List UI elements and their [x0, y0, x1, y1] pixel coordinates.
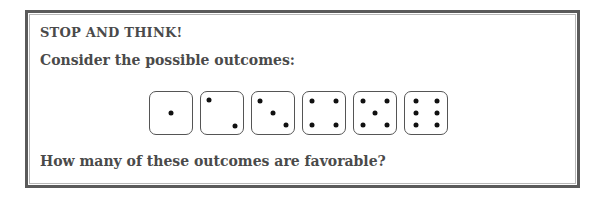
die-pip-icon: [310, 99, 315, 104]
die-face-1: [149, 91, 193, 135]
die-pip-icon: [258, 99, 263, 104]
die-pip-icon: [271, 111, 276, 116]
box-heading: STOP AND THINK!: [40, 25, 182, 40]
die-pip-icon: [384, 122, 389, 127]
die-pip-icon: [333, 122, 338, 127]
die-pip-icon: [413, 111, 418, 116]
favorable-question: How many of these outcomes are favorable…: [40, 153, 386, 169]
stop-and-think-box: STOP AND THINK! Consider the possible ou…: [25, 10, 580, 188]
die-face-6: [404, 91, 448, 135]
die-pip-icon: [434, 111, 439, 116]
die-face-3: [251, 91, 295, 135]
die-pip-icon: [333, 99, 338, 104]
die-pip-icon: [169, 111, 174, 116]
outcomes-prompt: Consider the possible outcomes:: [40, 52, 295, 68]
die-pip-icon: [283, 122, 288, 127]
die-pip-icon: [434, 99, 439, 104]
die-pip-icon: [373, 111, 378, 116]
die-pip-icon: [413, 122, 418, 127]
die-pip-icon: [413, 99, 418, 104]
die-pip-icon: [361, 99, 366, 104]
die-face-2: [200, 91, 244, 135]
die-pip-icon: [207, 98, 212, 103]
die-pip-icon: [310, 122, 315, 127]
die-pip-icon: [361, 122, 366, 127]
die-face-4: [302, 91, 346, 135]
die-face-5: [353, 91, 397, 135]
dice-outcomes-row: [149, 91, 448, 135]
die-pip-icon: [232, 123, 237, 128]
die-pip-icon: [384, 99, 389, 104]
die-pip-icon: [434, 122, 439, 127]
